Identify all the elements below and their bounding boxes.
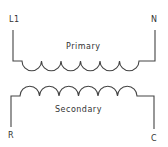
terminal-n-label: N: [151, 15, 157, 24]
terminal-c-label: C: [151, 134, 157, 143]
transformer-diagram: [0, 0, 168, 147]
primary-label: Primary: [66, 42, 100, 51]
terminal-r-label: R: [8, 131, 14, 140]
secondary-label: Secondary: [55, 105, 102, 114]
terminal-l1-label: L1: [9, 15, 20, 24]
